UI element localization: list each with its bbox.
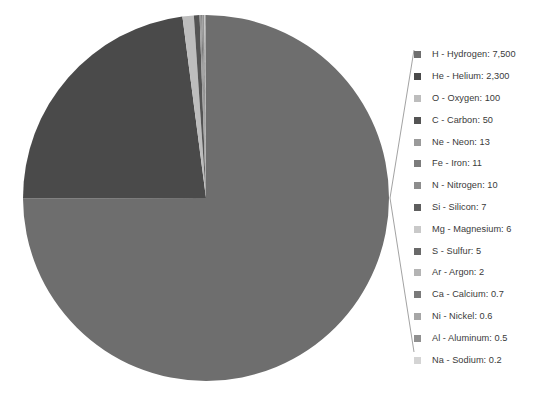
legend-item-helium[interactable]: He - Helium: 2,300: [414, 66, 548, 88]
legend-swatch-icon: [414, 291, 421, 298]
legend-item-hydrogen[interactable]: H - Hydrogen: 7,500: [414, 44, 548, 66]
legend-item-label: S - Sulfur: 5: [432, 246, 481, 257]
legend-swatch-icon: [414, 335, 421, 342]
legend-swatch-icon: [414, 160, 421, 167]
legend-item-label: N - Nitrogen: 10: [432, 180, 498, 191]
legend-item-label: Ne - Neon: 13: [432, 137, 490, 148]
legend-item-magnesium[interactable]: Mg - Magnesium: 6: [414, 218, 548, 240]
legend-swatch-icon: [414, 313, 421, 320]
legend-item-label: Mg - Magnesium: 6: [432, 224, 511, 235]
pie-slice-group: [23, 15, 389, 381]
chart-legend: H - Hydrogen: 7,500He - Helium: 2,300O -…: [414, 44, 548, 371]
legend-item-carbon[interactable]: C - Carbon: 50: [414, 109, 548, 131]
legend-item-label: C - Carbon: 50: [432, 115, 493, 126]
legend-item-aluminum[interactable]: Al - Aluminum: 0.5: [414, 327, 548, 349]
legend-item-sulfur[interactable]: S - Sulfur: 5: [414, 240, 548, 262]
legend-swatch-icon: [414, 182, 421, 189]
legend-item-oxygen[interactable]: O - Oxygen: 100: [414, 88, 548, 110]
legend-swatch-icon: [414, 73, 421, 80]
pie-slice-helium[interactable]: [23, 17, 206, 199]
legend-item-label: Fe - Iron: 11: [432, 158, 482, 169]
legend-swatch-icon: [414, 204, 421, 211]
legend-swatch-icon: [414, 117, 421, 124]
legend-item-label: Ar - Argon: 2: [432, 267, 484, 278]
legend-item-label: He - Helium: 2,300: [432, 71, 510, 82]
leader-line-upper: [390, 50, 414, 198]
legend-item-label: Na - Sodium: 0.2: [432, 355, 502, 366]
legend-swatch-icon: [414, 357, 421, 364]
legend-item-label: Ni - Nickel: 0.6: [432, 311, 493, 322]
legend-item-calcium[interactable]: Ca - Calcium: 0.7: [414, 284, 548, 306]
legend-swatch-icon: [414, 95, 421, 102]
legend-item-neon[interactable]: Ne - Neon: 13: [414, 131, 548, 153]
legend-item-label: Si - Silicon: 7: [432, 202, 486, 213]
legend-item-iron[interactable]: Fe - Iron: 11: [414, 153, 548, 175]
legend-swatch-icon: [414, 139, 421, 146]
legend-item-label: Ca - Calcium: 0.7: [432, 289, 504, 300]
legend-item-label: Al - Aluminum: 0.5: [432, 333, 507, 344]
legend-item-label: O - Oxygen: 100: [432, 93, 500, 104]
pie-chart-figure: H - Hydrogen: 7,500He - Helium: 2,300O -…: [0, 0, 548, 399]
legend-leader-lines: [390, 50, 414, 352]
leader-line-lower: [390, 198, 414, 352]
legend-swatch-icon: [414, 51, 421, 58]
legend-item-nitrogen[interactable]: N - Nitrogen: 10: [414, 175, 548, 197]
legend-item-sodium[interactable]: Na - Sodium: 0.2: [414, 349, 548, 371]
legend-item-label: H - Hydrogen: 7,500: [432, 49, 516, 60]
legend-item-silicon[interactable]: Si - Silicon: 7: [414, 197, 548, 219]
legend-swatch-icon: [414, 248, 421, 255]
legend-swatch-icon: [414, 269, 421, 276]
legend-item-argon[interactable]: Ar - Argon: 2: [414, 262, 548, 284]
legend-swatch-icon: [414, 226, 421, 233]
legend-item-nickel[interactable]: Ni - Nickel: 0.6: [414, 306, 548, 328]
